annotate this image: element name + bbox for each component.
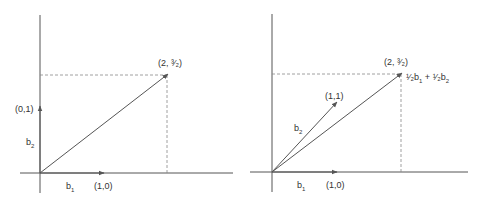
vector-target (40, 74, 168, 173)
label-target-point: (2, ³⁄₂) (158, 58, 182, 68)
label-linear-combination: ¹⁄₂b1 + ¹⁄₂b2 (406, 72, 450, 84)
label-target-point: (2, ³⁄₂) (384, 57, 408, 67)
label-b1-point: (1,0) (94, 181, 113, 191)
label-b1: b1 (297, 180, 306, 192)
panel-standard-basis: (2, ³⁄₂) (0,1) (1,0) b2 b1 (15, 15, 233, 193)
label-b2-point: (1,1) (325, 91, 344, 101)
vector-target (272, 73, 402, 172)
diagram-canvas: (2, ³⁄₂) (0,1) (1,0) b2 b1 (2, ³⁄₂) ¹⁄₂b… (0, 0, 485, 201)
label-b2: b2 (294, 123, 303, 135)
label-b2: b2 (26, 137, 35, 149)
vector-b2 (272, 102, 337, 172)
label-b1-point: (1,0) (326, 180, 345, 190)
label-b2-point: (0,1) (15, 104, 34, 114)
panel-alternate-basis: (2, ³⁄₂) ¹⁄₂b1 + ¹⁄₂b2 (1,1) (1,0) b2 b1 (250, 14, 468, 192)
label-b1: b1 (66, 181, 75, 193)
